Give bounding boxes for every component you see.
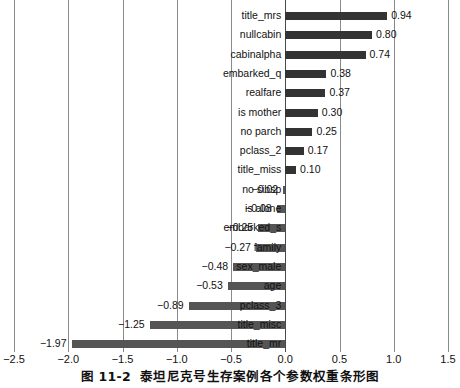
category-label: realfare [246,85,282,99]
bar-row: title_miss0.10 [0,160,460,179]
bar-row: age−0.53 [0,276,460,295]
category-label: is mother [238,105,281,119]
category-label: title_miss [237,162,281,176]
x-tick-label: −1.0 [166,352,188,366]
category-label: no parch [240,124,281,138]
bar-row: sex_male−0.48 [0,257,460,276]
value-label: −0.08 [245,201,272,215]
x-tick-label: 0.5 [332,352,347,366]
category-label: age [264,278,282,292]
value-label: 0.25 [316,124,336,138]
category-label: title_mrs [242,8,282,22]
bar-row: pclass_3−0.89 [0,296,460,315]
bar-row: realfare0.37 [0,83,460,102]
value-label: −0.25 [227,220,254,234]
bar [285,51,365,59]
x-tick-label: −2.0 [57,352,79,366]
category-label: title_mr [247,336,281,350]
value-label: −0.89 [157,298,184,312]
bar-row: title_mrs0.94 [0,6,460,25]
category-label: pclass_3 [240,298,281,312]
value-label: −0.53 [196,278,223,292]
value-label: 0.30 [322,105,342,119]
bar-row: no parch0.25 [0,122,460,141]
caption-number: 图 11-2 [81,369,131,384]
bar [285,70,326,78]
bar-row: embarked_s−0.25 [0,218,460,237]
category-label: pclass_2 [240,143,281,157]
figure-caption: 图 11-2泰坦尼克号生存案例各个参数权重条形图 [0,368,460,386]
value-label: 0.10 [300,162,320,176]
bar-chart-plot: title_mrs0.94nullcabin0.80cabinalpha0.74… [0,0,460,352]
value-label: 0.80 [376,27,396,41]
value-label: 0.94 [391,8,411,22]
bar-row: is mother0.30 [0,103,460,122]
x-tick-label: 0.0 [278,352,293,366]
value-label: −1.97 [40,336,67,350]
value-label: −0.48 [202,259,229,273]
x-axis: −2.5−2.0−1.5−1.0−0.50.00.51.01.5 [0,352,460,368]
category-label: cabinalpha [230,47,281,61]
x-tick-label: −0.5 [220,352,242,366]
bar-row: no sibsp−0.02 [0,180,460,199]
bar-row: cabinalpha0.74 [0,45,460,64]
bar [285,89,325,97]
bar-row: embarked_q0.38 [0,64,460,83]
bar-row: nullcabin0.80 [0,25,460,44]
figure: title_mrs0.94nullcabin0.80cabinalpha0.74… [0,0,460,388]
category-label: nullcabin [240,27,281,41]
bar [283,186,285,194]
value-label: 0.74 [370,47,390,61]
category-label: title_misc [237,317,281,331]
category-label: family [254,240,281,254]
bar [285,147,303,155]
x-tick-label: 1.0 [386,352,401,366]
caption-text: 泰坦尼克号生存案例各个参数权重条形图 [140,369,379,384]
x-tick-label: −1.5 [112,352,134,366]
bar-row: title_mr−1.97 [0,334,460,353]
bar [285,12,387,20]
value-label: −1.25 [118,317,145,331]
x-tick-label: −2.5 [3,352,25,366]
bar-row: family−0.27 [0,238,460,257]
value-label: −0.02 [252,182,279,196]
value-label: 0.37 [329,85,349,99]
bar-row: is alone−0.08 [0,199,460,218]
category-label: embarked_q [223,66,281,80]
bar [285,109,318,117]
value-label: 0.38 [330,66,350,80]
x-tick-label: 1.5 [440,352,455,366]
value-label: 0.17 [308,143,328,157]
value-label: −0.27 [224,240,251,254]
bar [285,31,372,39]
bar-row: title_misc−1.25 [0,315,460,334]
bar-row: pclass_20.17 [0,141,460,160]
bar [285,166,296,174]
bar [285,128,312,136]
category-label: sex_male [236,259,281,273]
